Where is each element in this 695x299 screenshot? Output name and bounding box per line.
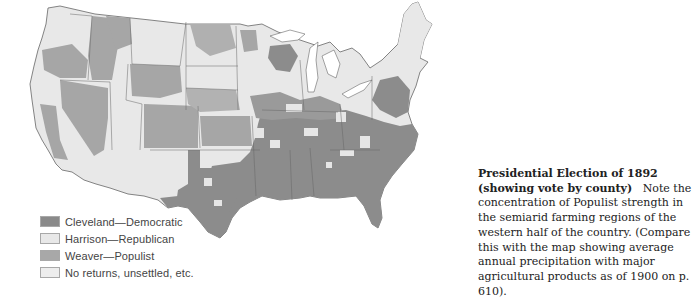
caption-body: Note the concentration of Populist stren… (478, 182, 691, 298)
legend-label: Cleveland—Democratic (65, 216, 183, 228)
swatch-no-returns (40, 267, 60, 278)
swatch-populist (40, 250, 60, 261)
legend-item-populist: Weaver—Populist (40, 247, 194, 264)
map-legend: Cleveland—Democratic Harrison—Republican… (40, 213, 194, 281)
legend-item-democratic: Cleveland—Democratic (40, 213, 194, 230)
swatch-democratic (40, 216, 60, 227)
swatch-republican (40, 233, 60, 244)
legend-label: No returns, unsettled, etc. (65, 267, 194, 279)
region-republican-new-england (390, 2, 432, 66)
region-populist-wyoming (130, 64, 182, 98)
region-populist-kansas (200, 116, 252, 146)
caption-title: Presidential Election of 1892 (showing v… (478, 167, 658, 195)
legend-label: Harrison—Republican (65, 233, 175, 245)
legend-item-no-returns: No returns, unsettled, etc. (40, 264, 194, 281)
region-populist-colorado (144, 104, 198, 148)
map-caption: Presidential Election of 1892 (showing v… (478, 167, 694, 299)
legend-label: Weaver—Populist (65, 250, 154, 262)
legend-item-republican: Harrison—Republican (40, 230, 194, 247)
